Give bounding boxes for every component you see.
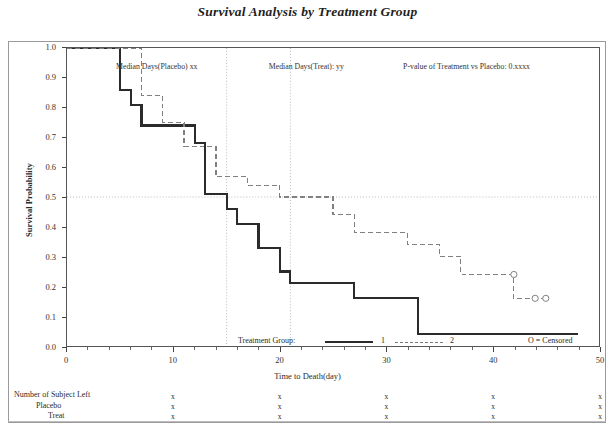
risk-value-header: x (594, 392, 606, 401)
x-tick-major (386, 347, 387, 352)
x-tick-minor (429, 347, 430, 350)
chart-annotation: P-value of Treatment vs Placebo: 0.xxxx (403, 62, 530, 71)
x-tick-major (280, 347, 281, 352)
legend-line-group2 (395, 342, 443, 343)
risk-value-placebo: x (487, 402, 499, 411)
x-tick-minor (216, 347, 217, 350)
chart-annotation: Median Days(Treat): yy (269, 62, 344, 71)
x-tick-major (600, 347, 601, 352)
x-tick-minor (194, 347, 195, 350)
x-tick-minor (579, 347, 580, 350)
x-tick-major (173, 347, 174, 352)
plot-area (66, 47, 600, 347)
risk-value-placebo: x (167, 402, 179, 411)
risk-value-treat: x (380, 412, 392, 421)
x-tick-label: 50 (585, 355, 615, 365)
legend-line-group1 (325, 341, 373, 343)
bottom-divider (8, 421, 606, 422)
x-tick-label: 0 (51, 355, 81, 365)
y-axis-title: Survival Probability (24, 163, 34, 237)
x-tick-minor (536, 347, 537, 350)
x-tick-minor (472, 347, 473, 350)
x-tick-label: 40 (478, 355, 508, 365)
x-tick-minor (151, 347, 152, 350)
risk-value-treat: x (167, 412, 179, 421)
censored-marker (511, 271, 517, 277)
x-tick-minor (109, 347, 110, 350)
risk-table-header: Number of Subject Left (14, 390, 90, 399)
x-axis-title: Time to Death(day) (0, 371, 615, 381)
risk-value-placebo: x (380, 402, 392, 411)
x-tick-minor (322, 347, 323, 350)
risk-value-header: x (487, 392, 499, 401)
x-tick-minor (450, 347, 451, 350)
x-tick-minor (515, 347, 516, 350)
x-tick-label: 10 (158, 355, 188, 365)
survival-curve-group-1 (67, 48, 578, 334)
x-tick-major (66, 347, 67, 352)
x-tick-minor (344, 347, 345, 350)
legend-label-group1: 1 (381, 336, 385, 345)
x-tick-minor (301, 347, 302, 350)
risk-value-placebo: x (274, 402, 286, 411)
x-tick-minor (87, 347, 88, 350)
risk-value-treat: x (594, 412, 606, 421)
x-tick-minor (557, 347, 558, 350)
legend-censored-note: O = Censored (528, 336, 573, 345)
risk-value-treat: x (487, 412, 499, 421)
x-tick-major (493, 347, 494, 352)
risk-row-label-placebo: Placebo (36, 401, 61, 410)
risk-value-header: x (167, 392, 179, 401)
x-tick-minor (408, 347, 409, 350)
x-tick-minor (237, 347, 238, 350)
risk-value-header: x (380, 392, 392, 401)
x-tick-minor (365, 347, 366, 350)
legend-label-group2: 2 (450, 336, 454, 345)
x-tick-minor (258, 347, 259, 350)
chart-annotation: Median Days(Placebo) xx (116, 62, 197, 71)
risk-value-treat: x (274, 412, 286, 421)
x-tick-minor (130, 347, 131, 350)
risk-value-placebo: x (594, 402, 606, 411)
survival-chart-page: Survival Analysis by Treatment Group Sur… (0, 0, 615, 431)
censored-marker (543, 295, 549, 301)
x-tick-label: 20 (265, 355, 295, 365)
page-title: Survival Analysis by Treatment Group (0, 4, 615, 20)
legend-title: Treatment Group: (238, 336, 295, 345)
risk-row-label-treat: Treat (48, 411, 65, 420)
x-tick-label: 30 (371, 355, 401, 365)
risk-value-header: x (274, 392, 286, 401)
censored-marker (532, 295, 538, 301)
survival-curves (67, 48, 599, 346)
survival-curve-group-2 (67, 48, 546, 298)
